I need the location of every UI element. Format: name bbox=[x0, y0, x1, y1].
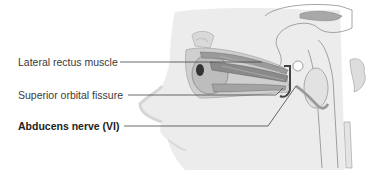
cerebellum bbox=[350, 59, 365, 92]
label-abducens-nerve: Abducens nerve (VI) bbox=[18, 120, 120, 132]
pituitary bbox=[293, 61, 303, 71]
label-lateral-rectus-muscle: Lateral rectus muscle bbox=[18, 56, 118, 68]
orbital-bone bbox=[192, 31, 214, 48]
anatomy-diagram: Lateral rectus muscle Superior orbital f… bbox=[0, 0, 379, 180]
label-superior-orbital-fissure: Superior orbital fissure bbox=[18, 89, 123, 101]
